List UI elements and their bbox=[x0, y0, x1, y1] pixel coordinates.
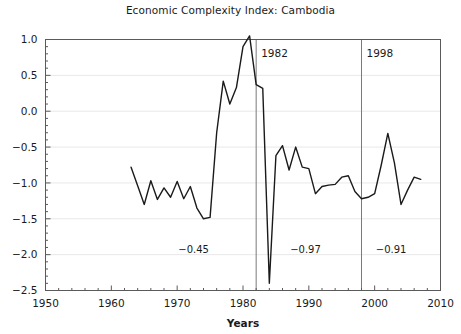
y-tick-label: −2.0 bbox=[12, 248, 38, 260]
x-axis-tick-labels-group: 1950196019701980199020002010 bbox=[32, 297, 454, 309]
chart-plot-area: 1950196019701980199020002010 1.00.50.0−0… bbox=[0, 0, 461, 334]
annotation-period-mean-before-1982: −0.45 bbox=[178, 244, 209, 255]
vertical-marker-label-1982: 1982 bbox=[261, 47, 288, 59]
y-tick-label: 0.0 bbox=[21, 105, 38, 117]
x-tick-label: 1950 bbox=[32, 297, 59, 309]
annotation-period-mean-1982-1998: −0.97 bbox=[290, 244, 321, 255]
x-axis-ticks-group bbox=[46, 286, 441, 291]
y-tick-label: 0.5 bbox=[21, 69, 38, 81]
y-tick-label: −0.5 bbox=[12, 141, 38, 153]
x-tick-label: 2000 bbox=[361, 297, 388, 309]
y-tick-label: −1.0 bbox=[12, 177, 38, 189]
annotation-period-mean-after-1998: −0.91 bbox=[376, 244, 407, 255]
x-tick-label: 2010 bbox=[427, 297, 454, 309]
y-tick-label: 1.0 bbox=[21, 33, 38, 45]
x-tick-label: 1960 bbox=[98, 297, 125, 309]
vertical-marker-label-1998: 1998 bbox=[367, 47, 394, 59]
x-axis-title: Years bbox=[226, 317, 259, 329]
x-tick-label: 1990 bbox=[295, 297, 322, 309]
y-tick-label: −1.5 bbox=[12, 213, 38, 225]
y-axis-tick-labels-group: 1.00.50.0−0.5−1.0−1.5−2.0−2.5 bbox=[12, 33, 38, 296]
mean-annotations-group: −0.45−0.97−0.91 bbox=[178, 244, 406, 255]
y-tick-label: −2.5 bbox=[12, 284, 38, 296]
economic-complexity-chart-figure: Economic Complexity Index: Cambodia 1950… bbox=[0, 0, 461, 334]
vertical-marker-labels-group: 19821998 bbox=[261, 47, 393, 59]
x-tick-label: 1980 bbox=[230, 297, 257, 309]
y-axis-ticks-group bbox=[46, 40, 51, 291]
x-tick-label: 1970 bbox=[164, 297, 191, 309]
x-axis-title-group: Years bbox=[226, 317, 259, 329]
